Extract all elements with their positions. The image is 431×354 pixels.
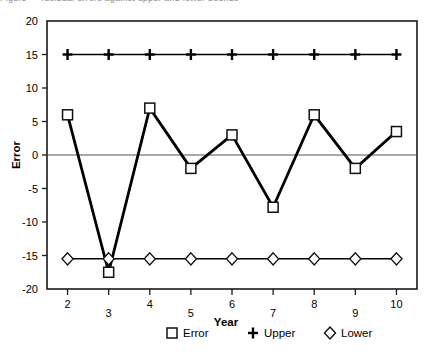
square-marker xyxy=(104,267,114,277)
y-axis-tick-label: -20 xyxy=(22,283,38,295)
square-marker xyxy=(268,202,278,212)
square-marker xyxy=(350,163,360,173)
square-marker xyxy=(391,127,401,137)
chart-legend: ErrorUpperLower xyxy=(167,327,372,339)
x-axis-tick-label: 5 xyxy=(188,307,194,319)
diamond-marker xyxy=(309,253,320,265)
x-axis-tick-label: 9 xyxy=(352,307,358,319)
x-axis-title: Year xyxy=(214,316,239,328)
x-axis-tick-label: 2 xyxy=(64,298,70,310)
diamond-marker xyxy=(350,253,361,265)
legend-label: Error xyxy=(183,327,209,339)
chart-figure: Figure — residual errors against upper a… xyxy=(0,0,431,354)
diamond-marker xyxy=(227,253,238,265)
legend-label: Upper xyxy=(264,327,295,339)
x-axis-tick-label: 7 xyxy=(270,307,276,319)
y-axis-title: Error xyxy=(10,140,22,169)
square-marker xyxy=(227,130,237,140)
square-marker xyxy=(186,163,196,173)
square-marker xyxy=(167,328,177,338)
legend-label: Lower xyxy=(341,327,372,339)
x-axis-tick-label: 3 xyxy=(106,307,112,319)
diamond-marker xyxy=(62,253,73,265)
diamond-marker xyxy=(391,253,402,265)
y-axis-tick-label: -5 xyxy=(28,183,38,195)
y-axis-tick-label: 15 xyxy=(26,49,38,61)
diamond-marker xyxy=(325,327,336,339)
square-marker xyxy=(309,110,319,120)
x-axis-tick-label: 10 xyxy=(390,298,402,310)
diamond-marker xyxy=(268,253,279,265)
x-axis-tick-label: 4 xyxy=(147,298,153,310)
square-marker xyxy=(145,103,155,113)
series-error xyxy=(63,103,402,277)
y-axis-tick-label: -15 xyxy=(22,250,38,262)
diamond-marker xyxy=(144,253,155,265)
y-axis-tick-label: 5 xyxy=(32,116,38,128)
x-axis-tick-label: 8 xyxy=(311,298,317,310)
x-axis-tick-label: 6 xyxy=(229,298,235,310)
y-axis-tick-label: 20 xyxy=(26,15,38,27)
series-upper xyxy=(63,49,402,60)
square-marker xyxy=(63,110,73,120)
y-axis-tick-label: 10 xyxy=(26,82,38,94)
error-chart-svg: 20151050-5-10-15-202345678910ErrorYearEr… xyxy=(0,0,431,354)
diamond-marker xyxy=(185,253,196,265)
y-axis-tick-label: 0 xyxy=(32,149,38,161)
y-axis-tick-label: -10 xyxy=(22,216,38,228)
